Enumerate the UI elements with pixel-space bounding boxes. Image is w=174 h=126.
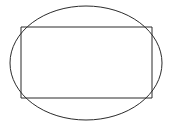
geometry-diagram [0, 0, 174, 126]
figure-canvas [0, 0, 174, 126]
rectangle-shape [21, 27, 152, 98]
ellipse-shape [10, 6, 162, 120]
